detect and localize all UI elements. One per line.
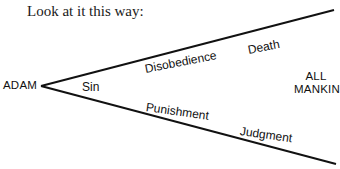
label-all-mankind: ALL MANKIND — [294, 70, 338, 96]
label-mankind: MANKIND — [294, 83, 338, 96]
lower-wedge-line — [41, 86, 336, 164]
label-sin: Sin — [82, 80, 99, 94]
label-adam: ADAM — [3, 79, 37, 91]
label-all: ALL — [294, 70, 338, 83]
upper-wedge-line — [41, 10, 334, 86]
